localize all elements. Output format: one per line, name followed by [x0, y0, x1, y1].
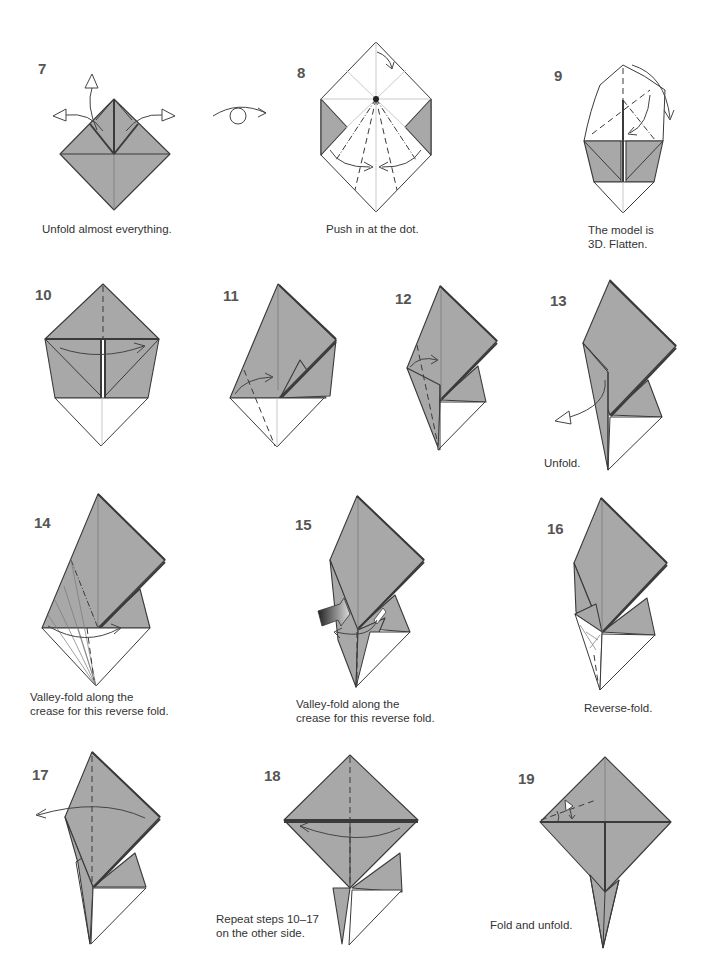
turn-over-icon [213, 107, 266, 124]
step-13-diagram [555, 280, 676, 470]
step-16-diagram [574, 498, 667, 690]
push-dot-icon [373, 96, 379, 102]
hollow-arrowhead-icon [162, 109, 175, 121]
diagrams-canvas [0, 0, 713, 968]
hollow-arrowhead-icon [53, 109, 66, 121]
step-7-diagram [53, 74, 175, 210]
step-15-diagram [318, 496, 424, 687]
step-18-diagram [284, 755, 418, 945]
step-10-diagram [45, 284, 159, 446]
step-19-diagram [540, 757, 671, 948]
hollow-arrowhead-icon [555, 411, 571, 424]
step-11-diagram [230, 284, 336, 447]
step-8-diagram [321, 42, 431, 212]
step-12-diagram [407, 286, 497, 450]
step-9-diagram [584, 65, 674, 213]
step-14-diagram [42, 494, 165, 686]
step-17-diagram [36, 752, 160, 944]
hollow-arrowhead-icon [85, 74, 98, 88]
